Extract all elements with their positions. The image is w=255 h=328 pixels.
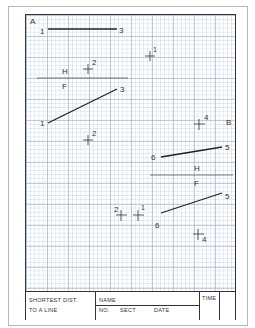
a-top-line-end-label: 3	[119, 26, 124, 35]
title-line-2: TO A LINE	[29, 307, 58, 313]
b-fold-f-label: F	[194, 179, 199, 188]
title-line-1: SHORTEST DIST.	[29, 297, 78, 303]
p1-top-label: 1	[153, 46, 157, 53]
b-top-line-end-label: 5	[225, 143, 230, 152]
a-front-line-start-label: 1	[40, 119, 45, 128]
a-front-line-end-label: 3	[120, 85, 125, 94]
title-block: SHORTEST DIST. TO A LINE NAME NO. SECT D…	[26, 291, 235, 320]
p1-bottom-label: 1	[141, 204, 145, 211]
drawing-canvas: A 1 3 2 H F 1 3 2 1 4 B 6 5 H F 5 6 4 2	[0, 0, 255, 328]
view-a-label: A	[30, 17, 36, 26]
a-top-line-start-label: 1	[40, 27, 45, 36]
blank-cell	[220, 292, 235, 320]
a-top-point-label: 2	[92, 58, 97, 67]
no-label: NO.	[99, 307, 110, 313]
b-fold-h-label: H	[194, 164, 200, 173]
a-fold-h-label: H	[62, 67, 68, 76]
name-cell: NAME NO. SECT DATE	[96, 292, 200, 320]
name-divider	[96, 305, 199, 306]
b-top-line	[161, 147, 222, 157]
time-label: TIME	[202, 295, 216, 301]
p1-bottom-cross	[133, 210, 144, 221]
a-fold-f-label: F	[62, 82, 67, 91]
p2-bottom-label: 2	[114, 205, 119, 214]
name-label: NAME	[99, 297, 116, 303]
b-front-point-label: 4	[202, 235, 207, 244]
b-front-line-start-label: 6	[155, 221, 160, 230]
a-front-line	[48, 89, 117, 123]
view-b-label: B	[226, 118, 231, 127]
date-label: DATE	[154, 307, 169, 313]
title-cell: SHORTEST DIST. TO A LINE	[26, 292, 96, 320]
b-top-point-label: 4	[204, 113, 209, 122]
a-front-point-label: 2	[92, 129, 97, 138]
b-front-line-end-label: 5	[225, 192, 230, 201]
time-cell: TIME	[200, 292, 220, 320]
b-front-line	[161, 193, 222, 213]
sect-label: SECT	[120, 307, 136, 313]
b-top-line-start-label: 6	[151, 153, 156, 162]
